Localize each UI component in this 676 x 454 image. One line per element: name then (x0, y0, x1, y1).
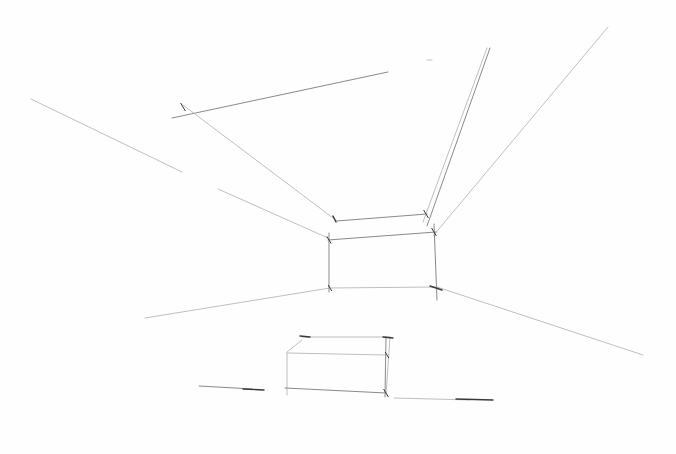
sketch-canvas (0, 0, 676, 454)
perspective-sketch (0, 0, 676, 454)
pencil-line (300, 336, 310, 337)
pencil-line (243, 389, 264, 390)
paper-background (0, 0, 676, 454)
pencil-line (383, 337, 393, 338)
pencil-line (456, 399, 493, 400)
